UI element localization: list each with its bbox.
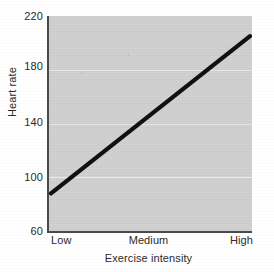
y-axis-ticks: 220 180 140 100 60: [4, 0, 43, 272]
x-axis-ticks: Low Medium High: [47, 234, 250, 250]
plot-area: [47, 16, 252, 233]
y-tick-label-100: 100: [7, 172, 43, 183]
x-tick-label-medium: Medium: [129, 234, 169, 246]
x-axis-title: Exercise intensity: [47, 252, 250, 264]
x-tick-label-high: High: [230, 234, 253, 246]
y-tick-label-60: 60: [7, 226, 43, 237]
series-line-heart-rate: [49, 16, 252, 231]
chart-figure: 220 180 140 100 60 Heart rate Low Medium…: [0, 0, 274, 272]
y-axis-title: Heart rate: [6, 52, 18, 132]
line-segment-low-to-high: [51, 36, 250, 193]
x-tick-label-low: Low: [51, 234, 71, 246]
y-tick-label-220: 220: [7, 11, 43, 22]
